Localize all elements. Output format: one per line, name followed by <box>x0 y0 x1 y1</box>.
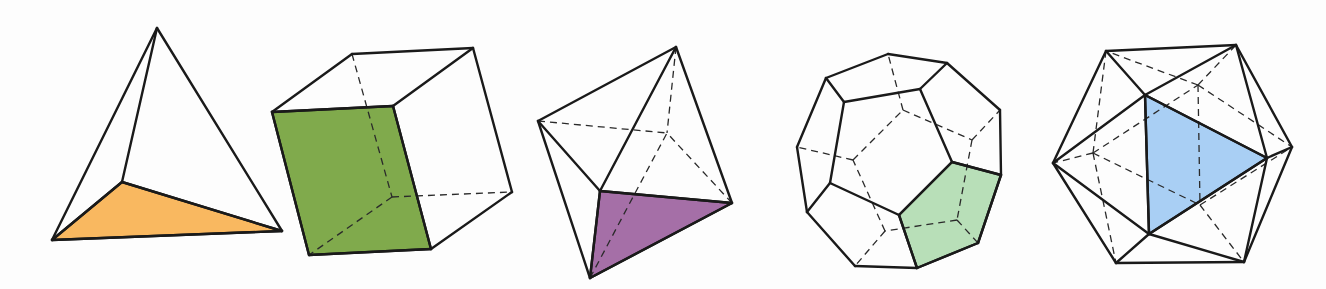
visible-edge <box>272 54 352 112</box>
hidden-edge <box>1198 45 1236 85</box>
hidden-edge <box>667 133 732 203</box>
visible-edge <box>920 63 947 89</box>
visible-edge <box>807 183 830 212</box>
visible-edge <box>122 28 157 182</box>
tetrahedron <box>52 28 282 240</box>
visible-edge <box>538 121 600 191</box>
solids-canvas <box>0 0 1326 289</box>
hidden-edge <box>1200 205 1244 262</box>
octahedron-highlighted-face <box>590 191 732 278</box>
icosahedron <box>1053 45 1292 263</box>
octahedron <box>538 47 732 278</box>
hidden-edge <box>972 110 1000 140</box>
hidden-edge <box>797 147 853 160</box>
visible-edge <box>844 89 920 102</box>
visible-edge <box>1236 45 1292 147</box>
dodecahedron <box>797 54 1001 268</box>
visible-edge <box>1116 234 1149 263</box>
visible-edge <box>888 54 947 63</box>
dodecahedron-highlighted-face <box>899 162 1001 268</box>
visible-edge <box>1116 262 1244 263</box>
cube-highlighted-face <box>272 106 431 255</box>
visible-edge <box>1000 110 1001 175</box>
visible-edge <box>1053 51 1106 163</box>
visible-edge <box>855 266 917 268</box>
visible-edge <box>920 89 952 162</box>
visible-edge <box>1053 163 1149 234</box>
hidden-edge <box>903 110 972 140</box>
visible-edge <box>1244 158 1267 262</box>
hidden-edge <box>538 121 667 133</box>
visible-edge <box>830 183 899 215</box>
visible-edge <box>431 192 512 249</box>
icosahedron-highlighted-face <box>1145 95 1267 234</box>
visible-edge <box>826 54 888 78</box>
visible-edge <box>538 121 590 278</box>
visible-edge <box>352 48 473 54</box>
hidden-edge <box>888 54 903 110</box>
visible-edge <box>1236 45 1267 158</box>
visible-edge <box>947 63 1000 110</box>
cube <box>272 48 512 255</box>
visible-edge <box>473 48 512 192</box>
visible-edge <box>826 78 844 102</box>
visible-edge <box>1149 234 1244 262</box>
visible-edge <box>797 78 826 147</box>
hidden-edge <box>855 231 885 266</box>
visible-edge <box>797 147 807 212</box>
visible-edge <box>807 212 855 266</box>
visible-edge <box>676 47 732 203</box>
hidden-edge <box>853 110 903 160</box>
visible-edge <box>1053 163 1116 263</box>
visible-edge <box>830 102 844 183</box>
visible-edge <box>1106 45 1236 51</box>
visible-edge <box>393 48 473 106</box>
platonic-solids-figure <box>0 0 1326 289</box>
